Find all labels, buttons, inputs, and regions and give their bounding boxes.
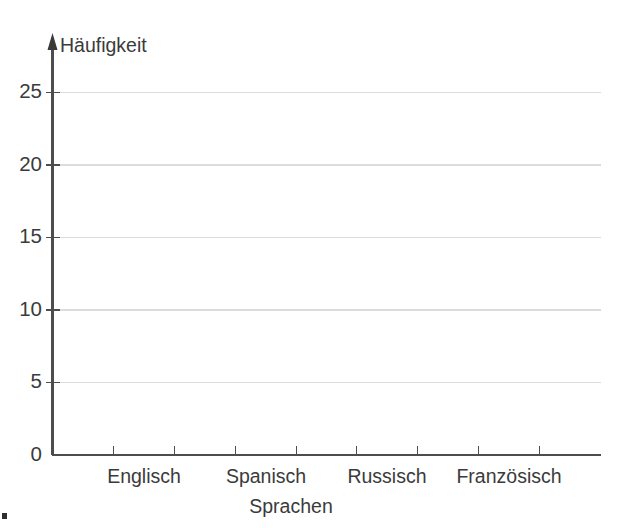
x-axis-title: Sprachen bbox=[249, 495, 332, 517]
x-category-label-englisch: Englisch bbox=[107, 465, 181, 487]
x-category-labels-group: Englisch Spanisch Russisch Französisch bbox=[107, 465, 561, 487]
page-corner-mark bbox=[2, 513, 7, 519]
y-axis-group bbox=[48, 33, 58, 455]
x-category-label-franzoesisch: Französisch bbox=[456, 465, 561, 487]
x-category-label-russisch: Russisch bbox=[347, 465, 426, 487]
y-tick-label-20: 20 bbox=[19, 152, 42, 175]
bar-chart-canvas: 25 20 15 10 5 0 Englisch Spanisch Russis… bbox=[0, 0, 629, 528]
chart-container: 25 20 15 10 5 0 Englisch Spanisch Russis… bbox=[0, 0, 629, 528]
y-tick-label-25: 25 bbox=[19, 79, 42, 102]
x-category-label-spanisch: Spanisch bbox=[226, 465, 306, 487]
gridlines-group bbox=[52, 93, 601, 383]
y-tick-label-5: 5 bbox=[31, 369, 42, 392]
x-tick-marks-group bbox=[114, 446, 540, 455]
y-tick-label-10: 10 bbox=[19, 297, 42, 320]
y-tick-labels-group: 25 20 15 10 5 0 bbox=[19, 79, 42, 465]
y-tick-label-15: 15 bbox=[19, 224, 42, 247]
y-tick-label-0: 0 bbox=[31, 442, 42, 465]
y-axis-title: Häufigkeit bbox=[60, 34, 147, 56]
y-axis-arrow-icon bbox=[48, 33, 58, 50]
